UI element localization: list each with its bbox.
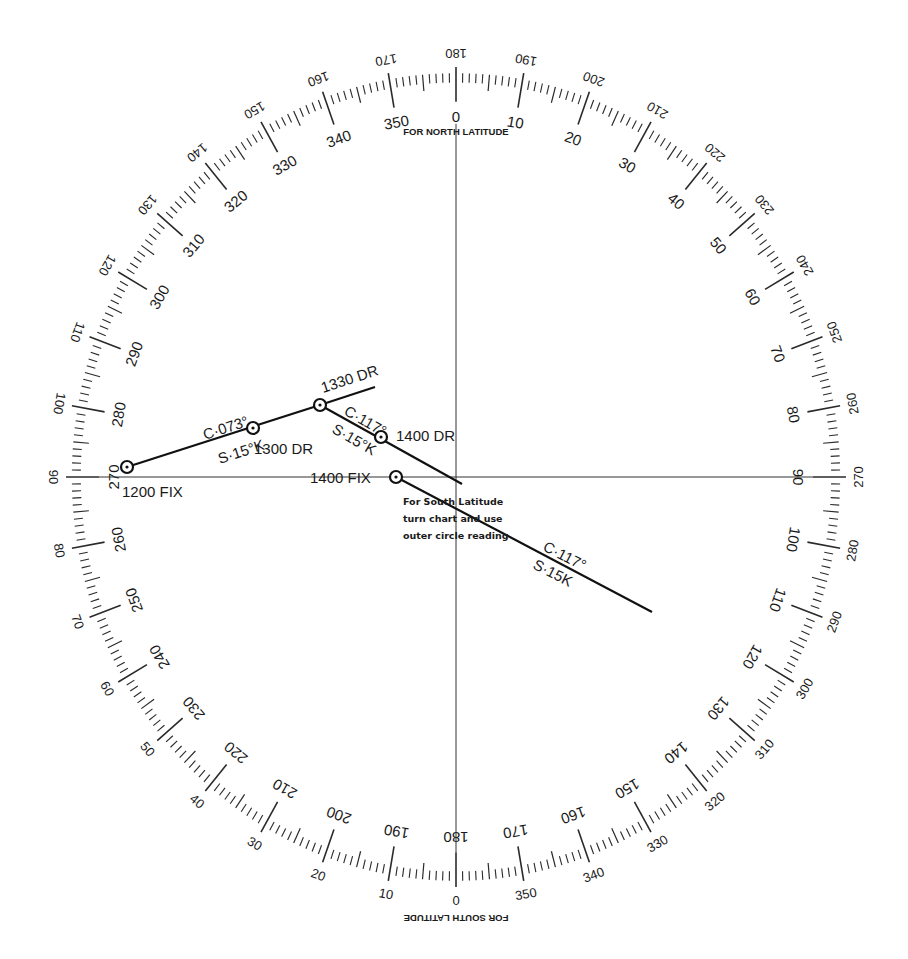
scale-tick (811, 605, 819, 608)
scale-tick (799, 313, 807, 317)
outer-scale-label: 200 (581, 68, 607, 90)
scale-tick (376, 863, 378, 872)
scale-tick (184, 751, 195, 763)
scale-tick (145, 709, 152, 715)
scale-tick (597, 843, 600, 852)
scale-tick (547, 85, 549, 94)
scale-tick (363, 85, 365, 94)
scale-tick (134, 257, 142, 262)
scale-tick (590, 845, 593, 854)
scale-tick (318, 845, 321, 854)
scale-tick (815, 592, 824, 595)
scale-tick (813, 599, 822, 602)
scale-tick (288, 832, 292, 840)
outer-scale-label: 260 (843, 392, 862, 416)
scale-tick (692, 784, 698, 791)
scale-tick (717, 186, 723, 193)
scale-tick (166, 736, 173, 742)
outer-scale-label: 110 (67, 320, 88, 345)
outer-scale-label: 0 (452, 893, 459, 908)
scale-tick (791, 337, 822, 349)
scale-tick (370, 861, 372, 870)
scale-tick (111, 650, 119, 654)
inner-scale-label: 190 (383, 821, 411, 842)
outer-scale-label: 100 (50, 392, 69, 416)
scale-tick (141, 245, 154, 254)
scale-tick (114, 656, 122, 660)
scale-tick (767, 251, 774, 256)
scale-tick (660, 808, 665, 816)
outer-scale-label: 130 (135, 192, 160, 218)
scale-tick (85, 372, 100, 376)
scale-tick (108, 306, 122, 313)
scale-tick (778, 680, 786, 685)
inner-scale-label: 110 (766, 586, 790, 614)
inner-scale-label: 30 (616, 153, 639, 176)
scale-tick (752, 720, 759, 726)
maneuvering-board-diagram: 0180101902020030210402205023060240702508… (0, 0, 908, 959)
scale-tick (735, 207, 742, 213)
inner-scale-label: 200 (324, 803, 353, 828)
scale-tick (93, 346, 101, 349)
track-annotation: 1330 DR (319, 361, 381, 396)
scale-tick (117, 662, 125, 666)
scale-tick (344, 854, 347, 863)
scale-tick (87, 366, 96, 369)
scale-tick (707, 177, 713, 184)
scale-tick (171, 207, 178, 213)
scale-tick (138, 698, 145, 703)
scale-tick (828, 428, 837, 429)
scale-tick (634, 802, 651, 832)
scale-tick (626, 117, 630, 125)
outer-scale-label: 10 (378, 885, 395, 902)
inner-scale-label: 60 (741, 285, 764, 308)
scale-tick (204, 172, 210, 179)
scale-tick (90, 337, 121, 349)
scale-tick (566, 91, 569, 100)
scale-tick (547, 860, 549, 869)
dr1330-dot (318, 403, 321, 406)
scale-tick (175, 202, 182, 208)
scale-tick (756, 714, 763, 720)
scale-tick (801, 319, 809, 323)
scale-tick (823, 393, 832, 395)
scale-tick (300, 837, 304, 846)
outer-scale-label: 80 (51, 542, 68, 559)
scale-tick (82, 386, 91, 388)
scale-tick (79, 400, 88, 402)
scale-tick (306, 840, 310, 849)
scale-tick (515, 867, 516, 876)
scale-tick (100, 625, 108, 629)
scale-tick (111, 300, 119, 304)
scale-tick (91, 352, 100, 355)
scale-tick (184, 191, 195, 203)
scale-tick (396, 867, 397, 876)
scale-tick (806, 618, 814, 621)
scale-tick (90, 605, 121, 617)
track-annotation: C·073° (201, 412, 251, 443)
inner-scale-label: 100 (783, 526, 804, 554)
scale-tick (97, 332, 105, 335)
scale-tick (247, 808, 252, 816)
inner-scale-label: 210 (270, 775, 300, 802)
inner-scale-label: 340 (324, 126, 353, 151)
scale-tick (666, 804, 671, 812)
scale-tick (702, 172, 708, 179)
scale-tick (572, 852, 575, 861)
inner-scale-label: 50 (707, 234, 731, 258)
scale-tick (102, 319, 110, 323)
inner-scale-label: 290 (122, 339, 147, 368)
scale-tick (638, 124, 642, 132)
scale-tick (790, 306, 804, 313)
scale-tick (416, 75, 417, 84)
scale-tick (687, 788, 693, 795)
scale-tick (149, 714, 156, 720)
scale-tick (409, 868, 410, 877)
scale-tick (91, 599, 100, 602)
scale-tick (130, 686, 138, 691)
scale-tick (559, 89, 561, 98)
scale-tick (620, 114, 624, 122)
scale-tick (739, 212, 746, 218)
scale-tick (677, 150, 682, 158)
scale-tick (219, 788, 225, 795)
